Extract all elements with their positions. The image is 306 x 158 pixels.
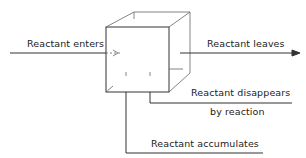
diagram-canvas <box>0 0 306 158</box>
reactant-accumulates-label: Reactant accumulates <box>151 138 259 149</box>
reactant-disappears-label: Reactant disappears <box>191 87 290 98</box>
enter-arrow <box>10 50 122 56</box>
reactant-enters-label: Reactant enters <box>27 38 104 49</box>
cube-icon <box>106 12 190 92</box>
leave-arrow <box>180 50 300 56</box>
material-balance-diagram: Reactant enters Reactant leaves Reactant… <box>0 0 306 158</box>
reactant-leaves-label: Reactant leaves <box>207 38 285 49</box>
by-reaction-label: by reaction <box>210 106 265 117</box>
